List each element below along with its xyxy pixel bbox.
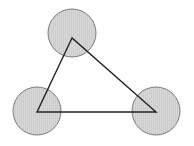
circle-bottom-right xyxy=(132,87,180,135)
figure-canvas xyxy=(0,0,194,146)
diagram-svg xyxy=(0,0,194,146)
circle-top xyxy=(48,9,96,57)
